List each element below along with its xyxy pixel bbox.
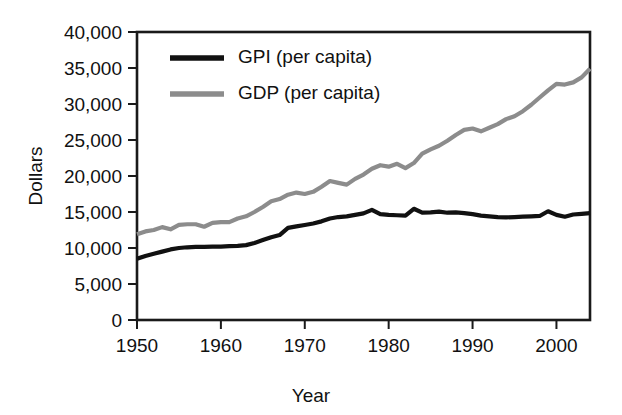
legend-label-gdp: GDP (per capita) <box>238 82 380 103</box>
y-tick-label: 10,000 <box>64 238 122 259</box>
y-tick-label: 25,000 <box>64 130 122 151</box>
y-tick-label: 0 <box>111 310 122 331</box>
x-tick-label: 1950 <box>116 335 158 356</box>
y-tick-label: 5,000 <box>74 274 122 295</box>
y-tick-label: 30,000 <box>64 94 122 115</box>
series-line-gpi <box>137 209 590 259</box>
y-axis-tick-labels: 05,00010,00015,00020,00025,00030,00035,0… <box>64 22 122 331</box>
y-tick-label: 15,000 <box>64 202 122 223</box>
x-axis-title: Year <box>292 385 331 406</box>
chart-figure: 05,00010,00015,00020,00025,00030,00035,0… <box>0 0 622 415</box>
x-tick-label: 1960 <box>200 335 242 356</box>
y-tick-label: 35,000 <box>64 58 122 79</box>
chart-canvas: 05,00010,00015,00020,00025,00030,00035,0… <box>0 0 622 415</box>
y-axis-title: Dollars <box>25 146 46 205</box>
x-axis-ticks <box>137 320 556 329</box>
x-tick-label: 2000 <box>535 335 577 356</box>
y-tick-label: 40,000 <box>64 22 122 43</box>
chart-legend: GPI (per capita)GDP (per capita) <box>170 46 380 103</box>
legend-label-gpi: GPI (per capita) <box>238 46 372 67</box>
y-axis-ticks <box>128 32 137 320</box>
x-tick-label: 1980 <box>368 335 410 356</box>
x-tick-label: 1970 <box>284 335 326 356</box>
x-tick-label: 1990 <box>451 335 493 356</box>
y-tick-label: 20,000 <box>64 166 122 187</box>
x-axis-tick-labels: 195019601970198019902000 <box>116 335 578 356</box>
